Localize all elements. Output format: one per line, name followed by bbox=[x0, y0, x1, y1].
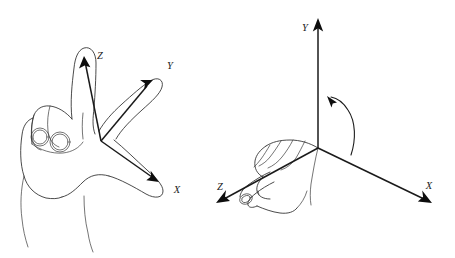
right-x-axis-label: X bbox=[425, 180, 433, 191]
hand-axes-figure: Z Y X bbox=[0, 0, 455, 258]
figure-canvas: Z Y X bbox=[0, 0, 455, 258]
left-x-axis-label: X bbox=[173, 184, 181, 195]
left-z-axis-label: Z bbox=[97, 50, 103, 61]
right-z-axis-label: Z bbox=[217, 181, 223, 192]
figure-background bbox=[0, 0, 455, 258]
